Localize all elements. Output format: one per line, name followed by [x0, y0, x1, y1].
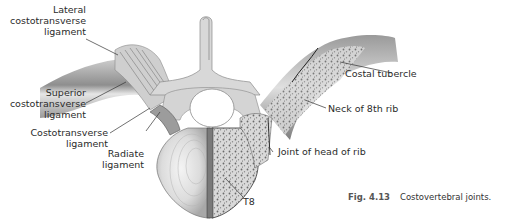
label-line: costotransverse [6, 98, 86, 109]
vertebral-canal [190, 89, 234, 127]
label-line: Lateral [10, 4, 86, 15]
label-line: costotransverse [10, 15, 86, 26]
label-t8: T8 [243, 196, 255, 207]
figure-title: Costovertebral joints. [400, 192, 491, 202]
label-line: Superior [6, 87, 86, 98]
figure-number: Fig. 4.13 [348, 192, 390, 202]
label-line: ligament [6, 109, 86, 120]
intervertebral-disc [157, 128, 210, 218]
label-neck-of-8th-rib: Neck of 8th rib [328, 103, 398, 114]
label-line: Radiate [96, 148, 144, 159]
label-line: ligament [20, 138, 108, 149]
costovertebral-illustration: Lateral costotransverse ligament Superio… [0, 0, 512, 224]
spinous-process [150, 17, 260, 95]
label-line: ligament [96, 159, 144, 170]
label-superior-costotransverse-ligament: Superior costotransverse ligament [6, 87, 86, 120]
figure-caption: Fig. 4.13Costovertebral joints. [348, 192, 491, 202]
label-line: ligament [10, 26, 86, 37]
label-costal-tubercle: Costal tubercle [345, 68, 417, 79]
label-lateral-costotransverse-ligament: Lateral costotransverse ligament [10, 4, 86, 37]
label-costotransverse-ligament: Costotransverse ligament [20, 127, 108, 149]
label-radiate-ligament: Radiate ligament [96, 148, 144, 170]
label-line: Costotransverse [20, 127, 108, 138]
label-joint-of-head-of-rib: Joint of head of rib [278, 146, 366, 157]
